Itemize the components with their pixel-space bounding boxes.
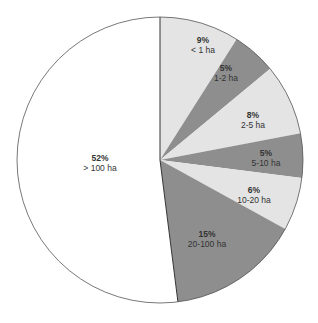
slice-label-lt1ha: 9%< 1 ha — [191, 35, 215, 55]
slice-label-1-2ha: 5%1-2 ha — [214, 63, 238, 83]
slice-label-20-100ha: 15%20-100 ha — [188, 229, 226, 249]
slice-label-10-20ha: 6%10-20 ha — [237, 185, 271, 205]
slice-label-5-10ha: 5%5-10 ha — [252, 148, 281, 168]
slice-label-2-5ha: 8%2-5 ha — [241, 110, 265, 130]
slice-label-gt100ha: 52%> 100 ha — [83, 153, 116, 173]
